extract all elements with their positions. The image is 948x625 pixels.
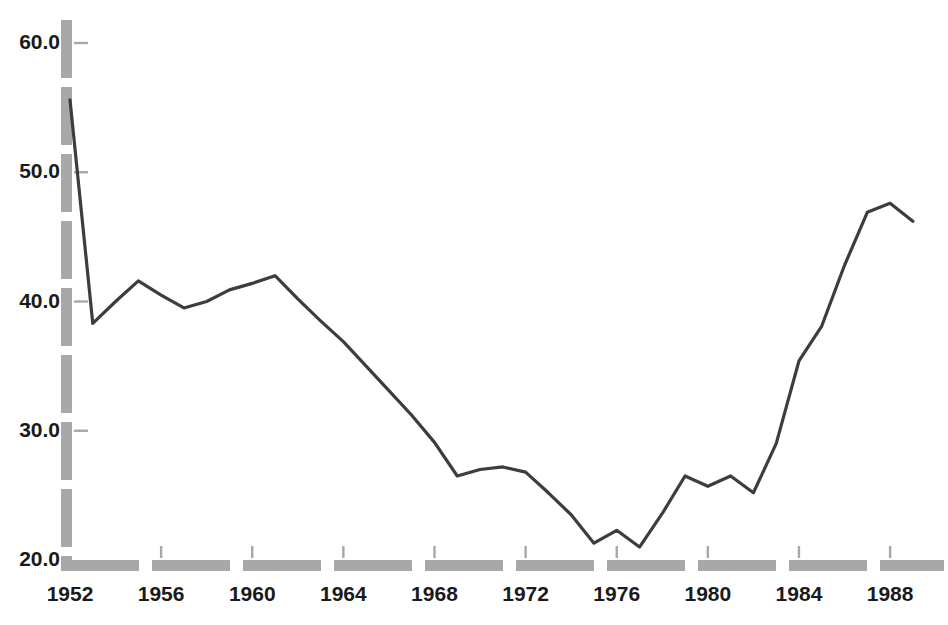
x-axis-tick-label: 1984 xyxy=(759,582,839,606)
y-axis-tick-label: 30.0 xyxy=(0,418,60,442)
chart-container: 20.030.040.050.060.0 1952195619601964196… xyxy=(0,0,948,625)
x-axis-tick-label: 1960 xyxy=(212,582,292,606)
data-series-line xyxy=(70,100,913,547)
x-axis-tick-label: 1976 xyxy=(577,582,657,606)
y-axis-segment xyxy=(61,422,72,480)
y-axis-tickmarks xyxy=(74,43,88,431)
y-axis-tick-label: 20.0 xyxy=(0,547,60,571)
x-axis-segment xyxy=(880,560,944,571)
x-axis-segment xyxy=(789,560,867,571)
y-axis-tick-label: 40.0 xyxy=(0,289,60,313)
x-axis-tick-label: 1980 xyxy=(668,582,748,606)
x-axis-segment xyxy=(698,560,776,571)
x-axis-segment xyxy=(334,560,412,571)
x-axis-tick-label: 1964 xyxy=(303,582,383,606)
x-axis-tick-label: 1972 xyxy=(486,582,566,606)
y-axis-tick-label: 50.0 xyxy=(0,159,60,183)
y-axis-segment xyxy=(61,489,72,547)
y-axis-segment xyxy=(61,20,72,78)
x-axis-tickmarks xyxy=(161,546,890,558)
x-axis xyxy=(61,560,944,571)
x-axis-segment xyxy=(152,560,230,571)
chart-plot-area xyxy=(0,0,948,625)
y-axis-segment xyxy=(61,288,72,346)
x-axis-segment xyxy=(516,560,594,571)
x-axis-segment xyxy=(61,560,139,571)
x-axis-segment xyxy=(425,560,503,571)
x-axis-segment xyxy=(607,560,685,571)
y-axis-segment xyxy=(61,355,72,413)
x-axis-segment xyxy=(243,560,321,571)
y-axis-segment xyxy=(61,154,72,212)
y-axis-segment xyxy=(61,221,72,279)
x-axis-tick-label: 1952 xyxy=(30,582,110,606)
x-axis-tick-label: 1988 xyxy=(850,582,930,606)
x-axis-tick-label: 1968 xyxy=(394,582,474,606)
y-axis-tick-label: 60.0 xyxy=(0,30,60,54)
x-axis-tick-label: 1956 xyxy=(121,582,201,606)
